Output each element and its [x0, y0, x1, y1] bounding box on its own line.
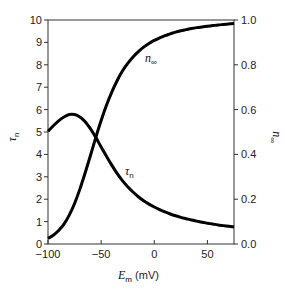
y-right-tick-label: 0.4	[241, 148, 256, 160]
y-left-tick-label: 5	[36, 126, 42, 138]
y-left-tick-label: 10	[30, 14, 42, 26]
plot-frame	[48, 20, 234, 244]
x-tick-label: 50	[201, 248, 213, 260]
curve-label-n-inf: n∞	[145, 51, 157, 67]
n-inf-curve	[48, 24, 234, 239]
y-right-tick-label: 0.2	[241, 193, 256, 205]
y-left-tick-label: 9	[36, 36, 42, 48]
y-left-tick-label: 6	[36, 104, 42, 116]
chart: −100−500500123456789100.00.20.40.60.81.0…	[0, 0, 285, 292]
y-left-tick-label: 8	[36, 59, 42, 71]
x-tick-label: −50	[92, 248, 111, 260]
y-left-tick-label: 7	[36, 81, 42, 93]
x-axis-title: Em (mV)	[117, 268, 159, 284]
tau-n-curve	[48, 114, 234, 227]
y-left-tick-label: 0	[36, 238, 42, 250]
y-right-tick-label: 0.6	[241, 104, 256, 116]
y-right-tick-label: 0.8	[241, 59, 256, 71]
y-left-tick-label: 2	[36, 193, 42, 205]
y-axis-left-title: τn	[5, 133, 21, 142]
curves	[48, 24, 234, 239]
y-right-tick-label: 1.0	[241, 14, 256, 26]
y-left-tick-label: 1	[36, 216, 42, 228]
curve-label-tau-n: τn	[125, 164, 134, 180]
y-left-tick-label: 3	[36, 171, 42, 183]
x-tick-label: 0	[151, 248, 157, 260]
y-right-tick-label: 0.0	[241, 238, 256, 250]
y-left-tick-label: 4	[36, 148, 42, 160]
y-axis-right-title: n∞	[268, 131, 284, 143]
